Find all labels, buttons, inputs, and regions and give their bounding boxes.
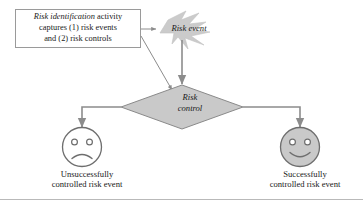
successful-caption-line2: controlled risk event <box>230 179 363 189</box>
description-line1-rest: activity <box>95 12 122 21</box>
unsuccessful-outcome-caption: Unsuccessfullycontrolled risk event <box>12 169 162 189</box>
unsuccessful-caption-line1: Unsuccessfully <box>12 169 162 179</box>
connector-diamond-to-sad-face <box>82 107 121 127</box>
description-emphasis: Risk identification <box>34 12 95 21</box>
happy-face-icon <box>281 128 320 167</box>
risk-event-label: Risk event <box>156 23 222 33</box>
connector-box-to-risk-control <box>141 36 172 90</box>
risk-control-diagram: Risk identification activitycaptures (1)… <box>0 0 363 206</box>
risk-control-label-line2: control <box>160 103 220 114</box>
description-line3: and (2) risk controls <box>44 34 112 43</box>
risk-control-label-line1: Risk <box>160 92 220 103</box>
successful-caption-line1: Successfully <box>230 169 363 179</box>
connector-diamond-to-happy-face <box>243 107 300 127</box>
risk-control-label: Riskcontrol <box>160 92 220 114</box>
description-line2: captures (1) risk events <box>39 23 117 32</box>
sad-face-icon <box>63 128 102 167</box>
unsuccessful-caption-line2: controlled risk event <box>12 179 162 189</box>
bottom-divider <box>0 199 363 200</box>
successful-outcome-caption: Successfullycontrolled risk event <box>230 169 363 189</box>
description-box-text: Risk identification activitycaptures (1)… <box>16 11 140 45</box>
